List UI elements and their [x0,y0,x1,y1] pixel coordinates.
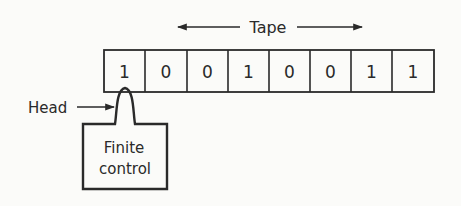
finite-control: Finite control [83,88,167,189]
finite-control-label-line1: Finite [104,139,145,157]
tape-label-group: Tape [178,18,362,37]
tape: 1 0 0 1 0 0 1 1 [104,50,434,92]
head-label: Head [28,99,67,117]
head-label-group: Head [28,99,114,117]
finite-control-label-line2: control [99,160,151,178]
tape-cell-4: 0 [284,62,295,82]
tape-cell-3: 1 [243,62,254,82]
tape-cell-7: 1 [408,62,419,82]
tape-cell-1: 0 [161,62,172,82]
tape-cell-2: 0 [202,62,213,82]
tape-label: Tape [249,18,287,37]
turing-machine-diagram: Tape 1 0 0 1 0 0 1 1 Head Finite control [0,0,461,206]
tape-cell-0: 1 [119,62,130,82]
tape-cell-6: 1 [366,62,377,82]
tape-cell-5: 0 [325,62,336,82]
